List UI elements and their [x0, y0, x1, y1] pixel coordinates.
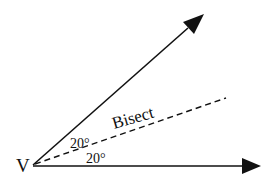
- lower-arrowhead-icon: [242, 158, 261, 174]
- lower-angle-label: 20°: [86, 151, 106, 166]
- vertex-label: V: [16, 155, 30, 176]
- angle-bisector-diagram: V Bisect 20° 20°: [0, 0, 273, 183]
- lower-ray: [33, 158, 261, 174]
- upper-arrowhead-icon: [183, 14, 204, 34]
- bisect-label: Bisect: [110, 103, 156, 133]
- upper-ray: [33, 14, 204, 165]
- upper-angle-label: 20°: [70, 136, 90, 151]
